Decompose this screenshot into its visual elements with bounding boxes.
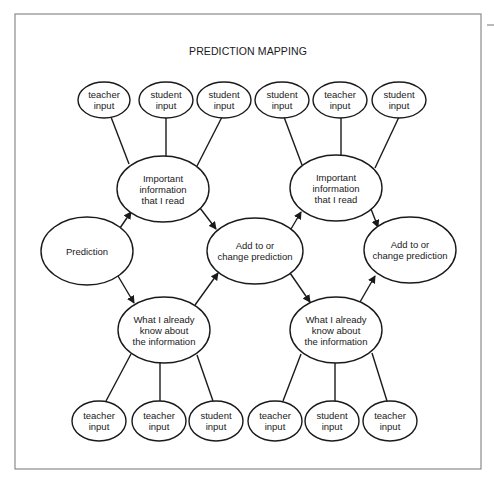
- connector-t6-to-imp2: [375, 117, 399, 168]
- node-t4: studentinput: [255, 82, 309, 118]
- node-label: input: [89, 421, 110, 432]
- arrow-know1-to-add1: [195, 273, 218, 305]
- node-label: input: [330, 100, 351, 111]
- node-label: input: [265, 421, 286, 432]
- node-label: Important: [316, 172, 356, 183]
- node-label: What I already: [305, 314, 366, 325]
- node-label: Add to or: [236, 240, 275, 251]
- node-label: change prediction: [218, 251, 293, 262]
- connector-know2-to-b6: [372, 353, 387, 401]
- node-pred: Prediction: [41, 217, 133, 285]
- node-label: change prediction: [373, 250, 448, 261]
- node-label: input: [206, 421, 227, 432]
- arrow-pred-to-imp1: [120, 212, 131, 228]
- prediction-mapping-diagram: PREDICTION MAPPING teacherinputstudentin…: [0, 0, 494, 477]
- node-label: input: [389, 100, 410, 111]
- arrow-add1-to-know2: [290, 273, 310, 302]
- node-b5: studentinput: [305, 401, 359, 441]
- node-label: student: [383, 89, 415, 100]
- node-label: teacher: [83, 410, 115, 421]
- connector-know2-to-b4: [283, 354, 301, 401]
- node-t6: studentinput: [372, 82, 426, 118]
- node-know1: What I alreadyknow aboutthe information: [118, 297, 210, 363]
- node-b4: teacherinput: [248, 401, 302, 441]
- arrow-imp1-to-add1: [200, 208, 216, 229]
- diagram-canvas: PREDICTION MAPPING teacherinputstudentin…: [0, 0, 494, 477]
- node-label: that I read: [142, 195, 185, 206]
- arrow-add1-to-imp2: [291, 212, 301, 229]
- node-label: What I already: [133, 314, 194, 325]
- arrow-know2-to-add2: [360, 276, 375, 302]
- node-t2: studentinput: [139, 82, 193, 118]
- node-label: the information: [305, 336, 368, 347]
- node-label: input: [380, 421, 401, 432]
- nodes-group: teacherinputstudentinputstudentinputstud…: [41, 82, 456, 441]
- connector-t3-to-imp1: [197, 117, 222, 166]
- node-add1: Add to orchange prediction: [207, 218, 303, 284]
- connector-know1-to-b3: [197, 355, 213, 401]
- node-label: input: [156, 100, 177, 111]
- connector-know1-to-b1: [106, 354, 131, 401]
- node-label: input: [94, 100, 115, 111]
- arrow-imp2-to-add2: [371, 209, 378, 227]
- node-label: information: [313, 183, 360, 194]
- node-label: input: [214, 100, 235, 111]
- node-label: student: [200, 410, 232, 421]
- node-label: student: [266, 89, 298, 100]
- node-label: the information: [133, 336, 196, 347]
- node-label: student: [316, 410, 348, 421]
- node-label: know about: [312, 325, 361, 336]
- node-label: that I read: [315, 194, 358, 205]
- node-label: teacher: [88, 89, 120, 100]
- node-label: teacher: [143, 410, 175, 421]
- node-add2: Add to orchange prediction: [364, 217, 456, 283]
- node-label: teacher: [374, 410, 406, 421]
- node-b2: teacherinput: [132, 401, 186, 441]
- node-label: teacher: [259, 410, 291, 421]
- node-b1: teacherinput: [72, 401, 126, 441]
- node-t5: teacherinput: [313, 82, 367, 118]
- node-label: input: [149, 421, 170, 432]
- node-label: information: [140, 184, 187, 195]
- node-b6: teacherinput: [363, 401, 417, 441]
- node-b3: studentinput: [189, 401, 243, 441]
- node-label: Add to or: [391, 239, 430, 250]
- node-know2: What I alreadyknow aboutthe information: [290, 297, 382, 363]
- node-t3: studentinput: [197, 82, 251, 118]
- node-label: student: [208, 89, 240, 100]
- node-imp1: Importantinformationthat I read: [117, 156, 209, 222]
- node-label: Prediction: [66, 246, 108, 257]
- node-t1: teacherinput: [78, 82, 130, 118]
- node-imp2: Importantinformationthat I read: [290, 155, 382, 221]
- node-label: student: [150, 89, 182, 100]
- connector-t4-to-imp2: [284, 117, 302, 165]
- node-label: input: [322, 421, 343, 432]
- node-label: input: [272, 100, 293, 111]
- node-label: teacher: [324, 89, 356, 100]
- diagram-title: PREDICTION MAPPING: [189, 45, 307, 57]
- node-label: know about: [140, 325, 189, 336]
- node-label: Important: [143, 173, 183, 184]
- arrow-pred-to-know1: [118, 276, 134, 303]
- connector-t1-to-imp1: [111, 117, 129, 164]
